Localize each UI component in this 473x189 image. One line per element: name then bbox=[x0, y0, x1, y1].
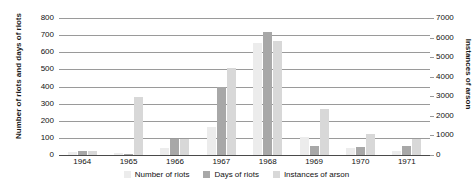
y-axis-left-tick: 400 bbox=[41, 83, 54, 91]
bar-group bbox=[245, 18, 291, 155]
bar-1968-series-1 bbox=[263, 32, 272, 155]
y-axis-right-tick: 0 bbox=[436, 151, 440, 159]
legend-swatch-icon bbox=[273, 171, 280, 178]
y-axis-left-tick: 100 bbox=[41, 134, 54, 142]
bar-1965-series-1 bbox=[124, 154, 133, 155]
bar-1967-series-1 bbox=[217, 87, 226, 155]
bar-group bbox=[59, 18, 105, 155]
bar-1964-series-0 bbox=[68, 152, 77, 155]
y-axis-right-tick-mark bbox=[430, 155, 434, 156]
x-axis-tick-1970: 1970 bbox=[337, 158, 383, 166]
chart-legend: Number of riotsDays of riotsInstances of… bbox=[0, 170, 473, 179]
x-axis-tick-1971: 1971 bbox=[384, 158, 430, 166]
legend-item-1[interactable]: Days of riots bbox=[203, 170, 258, 179]
y-axis-right-title: Instances of arson bbox=[464, 0, 472, 149]
bar-1969-series-2 bbox=[320, 109, 329, 155]
legend-swatch-icon bbox=[203, 171, 210, 178]
legend-swatch-icon bbox=[124, 171, 131, 178]
legend-item-0[interactable]: Number of riots bbox=[124, 170, 190, 179]
bar-1965-series-2 bbox=[134, 97, 143, 155]
bar-1970-series-1 bbox=[356, 147, 365, 155]
y-axis-right-tick: 7000 bbox=[436, 14, 454, 22]
bar-1968-series-2 bbox=[273, 41, 282, 155]
y-axis-left-tick: 200 bbox=[41, 117, 54, 125]
bar-group bbox=[105, 18, 151, 155]
y-axis-left-tick: 0 bbox=[50, 151, 54, 159]
bar-1970-series-0 bbox=[346, 148, 355, 155]
y-axis-right-tick: 6000 bbox=[436, 34, 454, 42]
x-axis-tick-1967: 1967 bbox=[198, 158, 244, 166]
legend-item-2[interactable]: Instances of arson bbox=[273, 170, 349, 179]
y-axis-left-tick: 800 bbox=[41, 14, 54, 22]
bar-group bbox=[291, 18, 337, 155]
x-axis-tick-1965: 1965 bbox=[105, 158, 151, 166]
y-axis-right-tick-mark bbox=[430, 135, 434, 136]
y-axis-right-tick-mark bbox=[430, 18, 434, 19]
bar-group bbox=[152, 18, 198, 155]
bar-1968-series-0 bbox=[253, 43, 262, 156]
y-axis-right-tick: 2000 bbox=[436, 112, 454, 120]
x-axis-tick-1969: 1969 bbox=[291, 158, 337, 166]
y-axis-right-tick-mark bbox=[430, 116, 434, 117]
bar-group bbox=[384, 18, 430, 155]
x-axis-tick-1966: 1966 bbox=[152, 158, 198, 166]
bar-1967-series-0 bbox=[207, 127, 216, 155]
y-axis-left-tick: 600 bbox=[41, 48, 54, 56]
y-axis-right-tick: 3000 bbox=[436, 92, 454, 100]
y-axis-left-tick: 300 bbox=[41, 100, 54, 108]
y-axis-right-tick-mark bbox=[430, 77, 434, 78]
bar-1964-series-2 bbox=[88, 151, 97, 155]
y-axis-right-tick: 4000 bbox=[436, 73, 454, 81]
bar-1971-series-2 bbox=[412, 139, 421, 155]
bar-1969-series-1 bbox=[310, 146, 319, 155]
gridline bbox=[59, 155, 430, 156]
bar-1964-series-1 bbox=[78, 151, 87, 155]
legend-label: Days of riots bbox=[214, 170, 258, 179]
bar-group bbox=[337, 18, 383, 155]
bar-1966-series-1 bbox=[170, 139, 179, 155]
chart-container: Number of riots and days of riots Instan… bbox=[0, 0, 473, 189]
legend-label: Number of riots bbox=[135, 170, 190, 179]
y-axis-right-tick-mark bbox=[430, 38, 434, 39]
y-axis-left-title: Number of riots and days of riots bbox=[15, 1, 23, 151]
plot-area: 0100200300400500600700800010002000300040… bbox=[59, 18, 430, 155]
x-axis-tick-1968: 1968 bbox=[245, 158, 291, 166]
y-axis-right-tick: 1000 bbox=[436, 131, 454, 139]
bar-1966-series-0 bbox=[160, 148, 169, 155]
y-axis-left-tick: 700 bbox=[41, 31, 54, 39]
x-axis-tick-1964: 1964 bbox=[59, 158, 105, 166]
bar-1971-series-0 bbox=[392, 151, 401, 155]
y-axis-left-tick: 500 bbox=[41, 65, 54, 73]
bar-1969-series-0 bbox=[300, 137, 309, 155]
y-axis-right-tick-mark bbox=[430, 57, 434, 58]
bar-1971-series-1 bbox=[402, 146, 411, 155]
bar-group bbox=[198, 18, 244, 155]
bar-1965-series-0 bbox=[114, 153, 123, 155]
bar-1967-series-2 bbox=[227, 68, 236, 155]
y-axis-right-tick: 5000 bbox=[436, 53, 454, 61]
bar-1966-series-2 bbox=[180, 139, 189, 155]
y-axis-right-tick-mark bbox=[430, 96, 434, 97]
bar-1970-series-2 bbox=[366, 134, 375, 155]
legend-label: Instances of arson bbox=[284, 170, 349, 179]
